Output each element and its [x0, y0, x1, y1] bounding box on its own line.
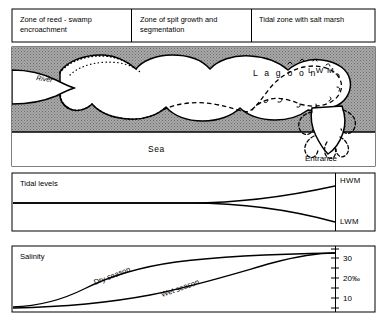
salinity-panel-title: Salinity: [20, 252, 45, 261]
zone-spit-growth-line2: segmentation: [140, 25, 184, 34]
lagoon-water-body: [60, 55, 351, 121]
entrance-label: Entrance: [305, 154, 338, 163]
zone-header-bar: Zone of reed - swamp encroachment Zone o…: [12, 9, 375, 42]
salinity-tick-20: 20‰: [343, 274, 360, 283]
salinity-panel: Salinity Dry season Wet season 30 20‰ 10: [12, 246, 375, 312]
tidal-hwm-label: HWM: [340, 176, 361, 185]
zone-reed-swamp-line2: encroachment: [20, 25, 67, 34]
tidal-levels-panel: Tidal levels HWM LWM: [12, 173, 375, 231]
tidal-panel-title: Tidal levels: [20, 179, 58, 188]
lagoon-zonation-figure: Zone of reed - swamp encroachment Zone o…: [0, 0, 387, 322]
tidal-lwm-label: LWM: [340, 217, 359, 226]
sea-label: Sea: [148, 144, 165, 154]
lagoon-label: L a g o o n: [253, 68, 318, 78]
map-panel: River L W M: [12, 47, 375, 166]
tidal-panel-border: [12, 173, 375, 231]
salinity-tick-30: 30: [343, 254, 352, 263]
zone-spit-growth-line1: Zone of spit growth and: [140, 15, 217, 24]
figure-canvas: Zone of reed - swamp encroachment Zone o…: [0, 0, 387, 322]
zone-tidal-saltmarsh-line1: Tidal zone with salt marsh: [259, 15, 344, 24]
zone-reed-swamp-line1: Zone of reed - swamp: [20, 15, 92, 24]
salinity-tick-10: 10: [343, 294, 352, 303]
